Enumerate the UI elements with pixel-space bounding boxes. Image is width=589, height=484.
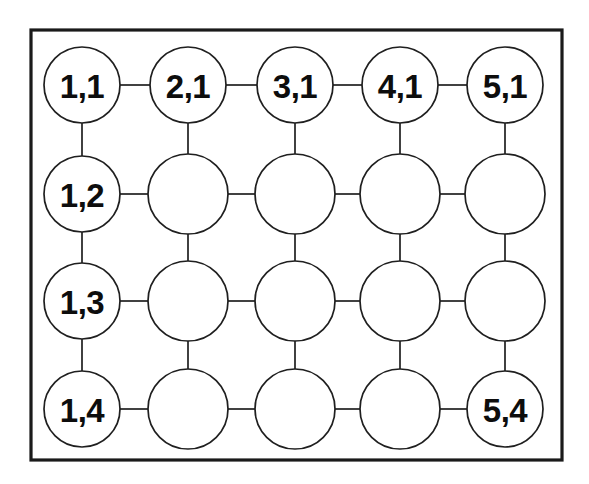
node-5-4[interactable]: 5,4 (467, 371, 543, 447)
node-4-2[interactable] (360, 154, 440, 234)
node-circle[interactable] (255, 261, 335, 341)
node-label: 5,1 (483, 68, 528, 105)
diagram-canvas: 1,12,13,14,15,11,21,31,45,4 (0, 0, 589, 484)
node-1-1[interactable]: 1,1 (44, 47, 120, 123)
node-label: 1,3 (60, 284, 105, 321)
node-label: 1,2 (60, 177, 105, 214)
node-3-1[interactable]: 3,1 (257, 47, 333, 123)
node-5-3[interactable] (465, 261, 545, 341)
node-circle[interactable] (465, 154, 545, 234)
node-2-4[interactable] (148, 369, 228, 449)
node-2-2[interactable] (148, 154, 228, 234)
node-label: 3,1 (273, 68, 318, 105)
node-3-3[interactable] (255, 261, 335, 341)
edges-layer (82, 85, 505, 409)
node-circle[interactable] (148, 154, 228, 234)
node-4-3[interactable] (360, 261, 440, 341)
node-circle[interactable] (360, 154, 440, 234)
node-1-4[interactable]: 1,4 (44, 371, 120, 447)
node-label: 5,4 (483, 392, 529, 429)
node-circle[interactable] (360, 369, 440, 449)
node-label: 1,1 (60, 68, 105, 105)
node-circle[interactable] (148, 261, 228, 341)
node-3-2[interactable] (255, 154, 335, 234)
grid-mesh-diagram: 1,12,13,14,15,11,21,31,45,4 (0, 0, 589, 484)
node-label: 4,1 (378, 68, 423, 105)
node-label: 1,4 (60, 392, 106, 429)
node-1-2[interactable]: 1,2 (44, 156, 120, 232)
node-circle[interactable] (255, 369, 335, 449)
node-circle[interactable] (360, 261, 440, 341)
node-4-1[interactable]: 4,1 (362, 47, 438, 123)
node-1-3[interactable]: 1,3 (44, 263, 120, 339)
node-circle[interactable] (255, 154, 335, 234)
node-label: 2,1 (166, 68, 211, 105)
node-2-3[interactable] (148, 261, 228, 341)
node-3-4[interactable] (255, 369, 335, 449)
node-5-2[interactable] (465, 154, 545, 234)
node-circle[interactable] (465, 261, 545, 341)
node-circle[interactable] (148, 369, 228, 449)
node-5-1[interactable]: 5,1 (467, 47, 543, 123)
node-4-4[interactable] (360, 369, 440, 449)
node-2-1[interactable]: 2,1 (150, 47, 226, 123)
